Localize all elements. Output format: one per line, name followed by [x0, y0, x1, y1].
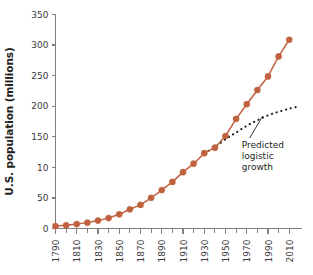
data-point-marker — [254, 87, 260, 93]
x-tick-label: 1930 — [200, 239, 210, 262]
y-axis-title: U.S. population (millions) — [3, 47, 15, 195]
y-tick-label: 150 — [31, 132, 48, 142]
data-point-marker — [233, 116, 239, 122]
y-axis-tick-labels: 05010150200250300350 — [31, 10, 48, 234]
annotation-line-2: logistic — [242, 151, 274, 161]
data-point-marker — [159, 187, 165, 193]
data-point-marker — [201, 150, 207, 156]
annotation-line-1: Predicted — [242, 140, 284, 150]
data-point-marker — [95, 218, 101, 224]
data-point-marker — [127, 206, 133, 212]
y-tick-label: 0 — [43, 224, 49, 234]
data-point-marker — [116, 211, 122, 217]
population-growth-chart-figure: 05010150200250300350 1790181018301850187… — [0, 0, 313, 275]
y-tick-label: 50 — [37, 193, 49, 203]
data-point-marker — [265, 73, 271, 79]
data-point-marker — [244, 101, 250, 107]
x-tick-label: 2010 — [285, 239, 295, 262]
y-tick-label: 250 — [31, 71, 48, 81]
population-data-line — [56, 40, 290, 226]
x-tick-label: 1910 — [179, 239, 189, 262]
data-point-marker — [52, 223, 58, 229]
data-point-marker — [191, 161, 197, 167]
data-point-marker — [169, 179, 175, 185]
population-data-markers — [52, 37, 292, 230]
data-point-marker — [212, 145, 218, 151]
data-point-marker — [222, 133, 228, 139]
y-tick-label: 200 — [31, 101, 48, 111]
x-tick-label: 1790 — [51, 239, 61, 262]
x-tick-label: 1830 — [94, 239, 104, 262]
data-point-marker — [106, 215, 112, 221]
data-point-marker — [286, 37, 292, 43]
data-point-marker — [63, 222, 69, 228]
y-tick-label: 10 — [37, 163, 49, 173]
x-tick-label: 1970 — [242, 239, 252, 262]
data-point-marker — [74, 221, 80, 227]
chart-canvas: 05010150200250300350 1790181018301850187… — [0, 0, 313, 275]
data-point-marker — [84, 220, 90, 226]
y-tick-label: 350 — [31, 10, 48, 20]
x-tick-label: 1950 — [221, 239, 231, 262]
data-point-marker — [148, 195, 154, 201]
data-point-marker — [137, 202, 143, 208]
x-axis-tick-labels: 1790181018301850187018901910193019501970… — [51, 239, 295, 262]
x-tick-label: 1990 — [264, 239, 274, 262]
y-tick-label: 300 — [31, 40, 48, 50]
data-point-marker — [276, 53, 282, 59]
annotation-line-3: growth — [242, 162, 273, 172]
data-point-marker — [180, 169, 186, 175]
x-tick-label: 1850 — [115, 239, 125, 262]
x-tick-label: 1870 — [136, 239, 146, 262]
x-tick-label: 1890 — [157, 239, 167, 262]
x-tick-label: 1810 — [72, 239, 82, 262]
annotation-leader-line — [250, 116, 263, 138]
